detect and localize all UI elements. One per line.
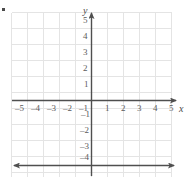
y-tick-label-neg3: –3 [80,142,89,151]
y-tick-label-2: 2 [83,64,88,73]
x-tick-label-neg4: –4 [31,104,40,113]
y-tick-label-5: 5 [83,16,88,25]
x-axis-label: x [179,104,183,114]
y-tick-label-neg2: –2 [80,126,89,135]
y-tick-label-neg4: –4 [80,153,89,162]
x-tick-label-neg2: –2 [63,104,72,113]
x-tick-label-2: 2 [121,104,126,113]
x-tick-label-3: 3 [137,104,142,113]
x-tick-label-neg5: –5 [15,104,24,113]
coordinate-plane-figure: y x –5 –4 –3 –2 –1 1 2 3 4 5 5 4 3 2 1 –… [0,0,190,184]
y-tick-label-1: 1 [84,80,89,89]
y-tick-label-3: 3 [83,48,88,57]
y-tick-label-4: 4 [83,32,88,41]
graph-canvas [0,0,190,184]
y-tick-label-neg1: –1 [81,110,90,119]
x-tick-label-neg3: –3 [47,104,56,113]
x-tick-label-4: 4 [153,104,158,113]
x-tick-label-5: 5 [169,104,174,113]
x-tick-label-1: 1 [105,104,110,113]
